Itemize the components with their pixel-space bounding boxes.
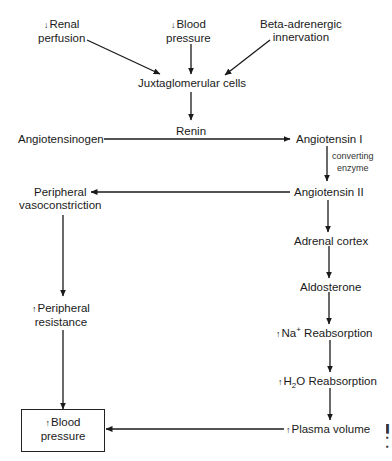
node-angiotensin-i: Angiotensin I [296, 133, 363, 146]
decrease-arrow-icon: ↓ [171, 20, 176, 30]
increase-arrow-icon: ↑ [278, 377, 283, 387]
node-angiotensinogen: Angiotensinogen [18, 133, 104, 146]
node-beta-adrenergic-innervation: Beta-adrenergic innervation [260, 18, 342, 44]
increase-arrow-icon: ↑ [46, 418, 51, 428]
node-increased-h2o-reabsorption: ↑H2O Reabsorption [278, 375, 377, 389]
connector-arrows [0, 0, 392, 461]
node-increased-peripheral-resistance: ↑Peripheral resistance [32, 302, 90, 329]
node-renin: Renin [176, 125, 206, 138]
figure-caption-fragment: ▌▪▪ [386, 424, 392, 451]
increase-arrow-icon: ↑ [32, 304, 37, 314]
node-decreased-blood-pressure: ↓Blood pressure [166, 18, 211, 45]
increase-arrow-icon: ↑ [276, 329, 281, 339]
node-adrenal-cortex: Adrenal cortex [294, 235, 368, 248]
node-increased-plasma-volume: ↑Plasma volume [286, 423, 370, 437]
node-peripheral-vasoconstriction: Peripheral vasoconstriction [19, 186, 101, 212]
node-angiotensin-ii: Angiotensin II [294, 186, 364, 199]
increase-arrow-icon: ↑ [286, 425, 291, 435]
node-aldosterone: Aldosterone [300, 281, 361, 294]
node-increased-blood-pressure: ↑Blood pressure [21, 416, 105, 443]
node-decreased-renal-perfusion: ↓Renal perfusion [38, 18, 85, 45]
node-increased-na-reabsorption: ↑Na+ Reabsorption [276, 327, 372, 341]
label-converting-enzyme: converting enzyme [332, 150, 374, 174]
node-juxtaglomerular-cells: Juxtaglomerular cells [138, 77, 246, 90]
decrease-arrow-icon: ↓ [44, 20, 49, 30]
